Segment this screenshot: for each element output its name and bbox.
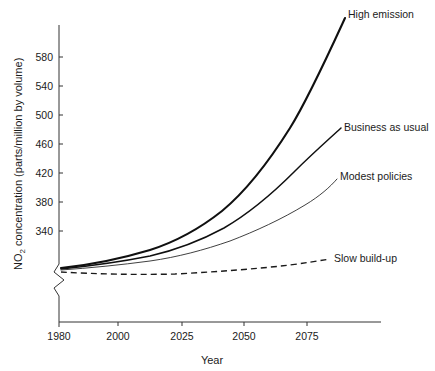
y-tick-label-340: 340 — [35, 225, 53, 237]
y-tick-label-540: 540 — [35, 80, 53, 92]
y-axis-tick-labels: 580 540 500 460 420 380 340 — [35, 51, 53, 237]
no2-concentration-line-chart: 580 540 500 460 420 380 340 1980 2000 20… — [0, 0, 435, 371]
series-line-modest-policies — [61, 179, 337, 270]
y-axis-title-prefix: NO — [12, 253, 24, 270]
x-tick-label-2000: 2000 — [106, 330, 130, 342]
x-axis-ticks — [59, 322, 307, 327]
y-axis-title-suffix: concentration (parts/million by volume) — [12, 58, 24, 249]
y-tick-label-420: 420 — [35, 167, 53, 179]
series-line-business-as-usual — [61, 128, 341, 269]
series-label-high-emission: High emission — [348, 8, 414, 20]
y-tick-label-380: 380 — [35, 196, 53, 208]
y-tick-label-500: 500 — [35, 109, 53, 121]
x-axis-title: Year — [201, 354, 224, 366]
y-tick-label-580: 580 — [35, 51, 53, 63]
x-tick-label-2025: 2025 — [170, 330, 194, 342]
x-tick-label-2050: 2050 — [232, 330, 256, 342]
y-axis-ticks — [59, 57, 63, 231]
x-axis-tick-labels: 1980 2000 2025 2050 2075 — [47, 330, 319, 342]
y-axis-title: NO2 concentration (parts/million by volu… — [12, 58, 27, 270]
chart-page: 580 540 500 460 420 380 340 1980 2000 20… — [0, 0, 435, 371]
x-tick-label-2075: 2075 — [295, 330, 319, 342]
series-label-modest-policies: Modest policies — [340, 170, 412, 182]
series-line-high-emission — [61, 18, 345, 268]
svg-text:NO2 concentration (parts/milli: NO2 concentration (parts/million by volu… — [12, 58, 27, 270]
y-tick-label-460: 460 — [35, 138, 53, 150]
x-tick-label-1980: 1980 — [47, 330, 71, 342]
series-label-slow-build-up: Slow build-up — [334, 252, 397, 264]
series-label-business-as-usual: Business as usual — [344, 121, 429, 133]
